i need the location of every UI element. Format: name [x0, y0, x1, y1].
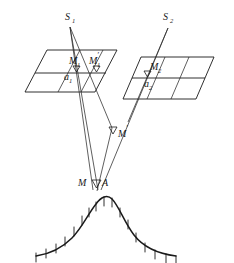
label-point-m2: M 2 [149, 61, 162, 74]
plane-a2-group [123, 57, 214, 99]
label-source-2-base: S [163, 11, 168, 22]
rays-from-source-2 [101, 28, 168, 190]
label-point-m1-prime: M 1 ′ [88, 51, 100, 68]
label-source-2-sub: 2 [170, 17, 174, 24]
label-plane-a2-sub: 2 [149, 84, 153, 91]
hill-profile-curve [36, 197, 176, 256]
label-plane-a1-sub: 1 [69, 77, 72, 84]
label-source-1: S 1 [65, 11, 75, 24]
label-point-m-prime-mark: ′ [126, 124, 128, 133]
label-point-a: A [101, 177, 109, 188]
label-point-m: M [77, 177, 87, 188]
label-point-m-prime: M ′ [117, 124, 128, 139]
label-source-1-base: S [65, 11, 70, 22]
terrain-group [36, 197, 176, 263]
marker-mprime-triangle [109, 127, 117, 134]
label-point-m1-prime-sub: 1 [97, 61, 100, 68]
label-point-m1-prime-mark: ′ [97, 51, 99, 60]
rays-from-source-1 [70, 27, 112, 190]
terrain-hatching [36, 197, 176, 263]
geometry-diagram: S 1 S 2 M 1 M 1 ′ M 2 [0, 0, 234, 263]
ray-s1-to-m [70, 27, 93, 190]
label-point-m1-sub: 1 [77, 61, 80, 68]
label-source-2: S 2 [163, 11, 174, 24]
ray-s2-to-a [101, 28, 168, 190]
figure-canvas: S 1 S 2 M 1 M 1 ′ M 2 [0, 0, 234, 263]
label-plane-a2: a 2 [144, 78, 153, 91]
ray-s1-to-a [70, 27, 98, 190]
label-source-1-sub: 1 [72, 17, 75, 24]
ray-s1-to-mprime [70, 27, 112, 128]
label-point-m2-sub: 2 [158, 67, 162, 74]
